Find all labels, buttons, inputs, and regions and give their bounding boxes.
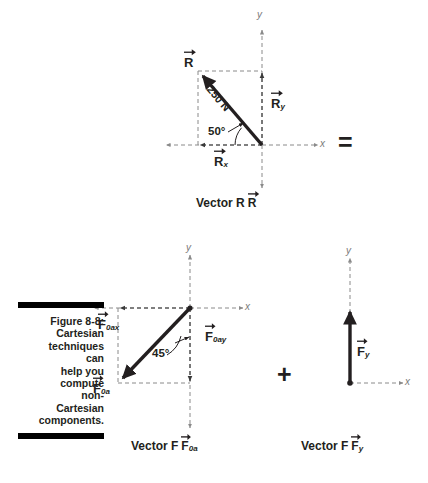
component-f0ay-subscript: 0ay (213, 335, 226, 344)
axis-y-label: y (346, 246, 351, 256)
component-ry-label: Ry (271, 97, 285, 111)
caption-fy-subscript: y (359, 444, 363, 453)
origin-dot (347, 380, 353, 386)
axis-y-label: y (257, 10, 262, 20)
caption-line: techniques (18, 340, 104, 352)
figure-caption-block: Figure 8-8: Cartesian techniques can hel… (18, 302, 104, 439)
caption-line: help you (18, 365, 104, 377)
angle-arc-50 (235, 128, 242, 145)
diagram-vector-fy (347, 258, 403, 386)
vector-f0a-subscript: 0a (101, 387, 110, 396)
caption-text: Figure 8-8: Cartesian techniques can hel… (18, 315, 104, 427)
diagram-vector-r (166, 30, 318, 188)
axis-x-label: x (405, 377, 410, 387)
component-rx-subscript: x (223, 160, 227, 169)
axis-y-label: y (186, 243, 191, 253)
caption-vector-fy: Vector FFy (301, 440, 363, 453)
caption-line: can (18, 352, 104, 364)
component-f0ax-subscript: 0ax (106, 323, 119, 332)
figure-8-8: x y R 250 N 50° Ry Rx Vector RR = Figure… (0, 0, 428, 483)
angle-leader-45 (175, 337, 189, 343)
angle-label-50: 50° (208, 126, 225, 138)
caption-line: Cartesian (18, 402, 104, 414)
component-f0ay-label: F0ay (205, 330, 226, 344)
caption-figure-label: Figure 8-8: (18, 315, 104, 327)
equals-operator: = (338, 130, 353, 155)
angle-leader-50 (228, 123, 244, 132)
caption-line: components. (18, 414, 104, 426)
axis-x-label: x (245, 302, 250, 312)
caption-f0a-subscript: 0a (189, 444, 198, 453)
origin-dot (187, 305, 192, 310)
caption-rule-bottom (18, 433, 104, 439)
vector-r-label: R (184, 56, 193, 69)
vector-f0a-arrow (123, 308, 190, 378)
caption-rule-top (18, 302, 104, 308)
axis-x-label: x (320, 139, 325, 149)
caption-vector-r: Vector RR (196, 197, 256, 209)
caption-line: compute (18, 377, 104, 389)
angle-label-45: 45° (152, 348, 169, 360)
component-ry-subscript: y (280, 102, 284, 111)
plus-operator: + (277, 362, 292, 387)
caption-vector-f0a: Vector FF0a (131, 440, 198, 453)
component-f0ax-label: F0ax (98, 318, 119, 332)
caption-line: Cartesian (18, 327, 104, 339)
vector-f0a-label: F0a (93, 382, 110, 396)
vector-fy-label: Fy (357, 345, 369, 359)
caption-line: non- (18, 389, 104, 401)
vector-fy-subscript: y (365, 350, 369, 359)
component-rx-label: Rx (214, 155, 228, 169)
